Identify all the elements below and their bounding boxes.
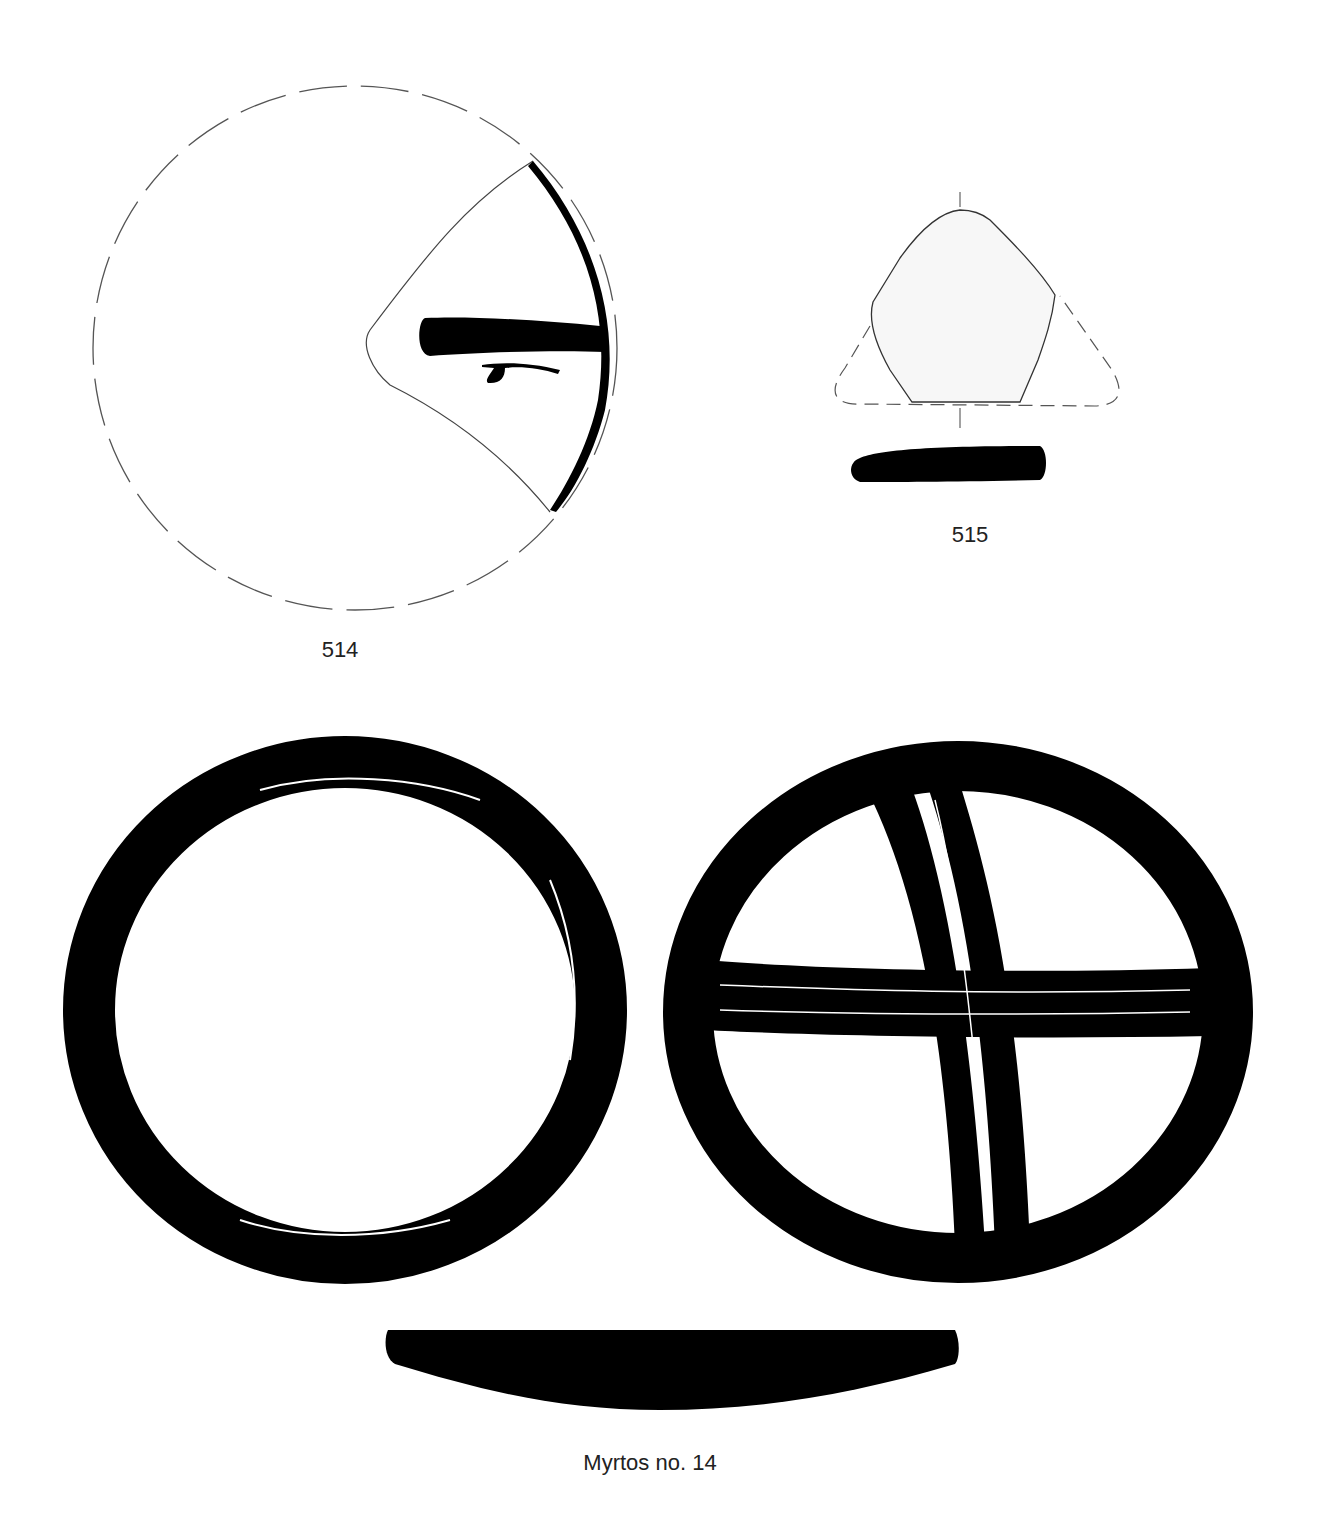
figure-514-drawing [93, 86, 617, 610]
figure-515-label: 515 [952, 522, 989, 548]
figure-514-label: 514 [322, 637, 359, 663]
myrtos-14-face-a [89, 762, 601, 1258]
figure-myrtos-14-label: Myrtos no. 14 [583, 1450, 716, 1476]
figure-515-drawing [835, 192, 1119, 482]
myrtos-14-face-b [688, 766, 1228, 1258]
illustration-plate [0, 0, 1321, 1525]
myrtos-14-section [386, 1330, 959, 1410]
